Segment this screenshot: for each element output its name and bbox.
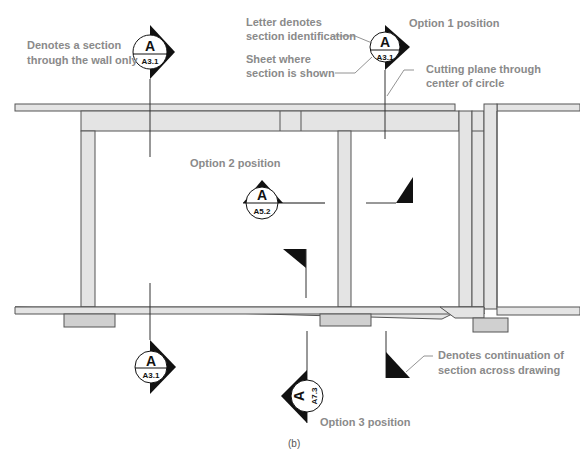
top-wall-band xyxy=(81,111,459,131)
bottom-slab xyxy=(15,307,484,314)
top-wall-left xyxy=(15,104,455,111)
flag-arrow-icon xyxy=(386,352,410,378)
sheet-number: A5.2 xyxy=(254,207,271,216)
wall-only-label: Denotes a section xyxy=(27,39,121,51)
section-symbol-option3: A A7.3 xyxy=(281,331,323,423)
letter-label-2: section identification xyxy=(246,30,356,42)
continuation-marker-lower xyxy=(386,331,410,378)
footing-right xyxy=(473,318,508,332)
section-letter: A xyxy=(291,391,307,401)
section-symbol-wall-bottom: A A3.1 xyxy=(135,283,176,394)
figure-caption: (b) xyxy=(288,438,300,449)
section-letter: A xyxy=(146,353,156,369)
bottom-slab-right xyxy=(497,307,580,315)
option2-label: Option 2 position xyxy=(190,157,281,169)
option1-label: Option 1 position xyxy=(409,17,500,29)
letter-label: Letter denotes xyxy=(246,16,322,28)
right-wall-2 xyxy=(472,111,484,307)
floor-plan xyxy=(15,104,580,332)
section-letter: A xyxy=(257,187,267,203)
continuation-marker-upper xyxy=(366,177,413,203)
flag-arrow-icon xyxy=(396,177,413,203)
section-letter: A xyxy=(145,38,155,54)
continuation-label: Denotes continuation of xyxy=(438,349,564,361)
option3-label: Option 3 position xyxy=(320,416,411,428)
sheet-number: A3.1 xyxy=(142,57,159,66)
footing-left xyxy=(64,314,115,327)
cutting-plane-label: Cutting plane through xyxy=(426,63,541,75)
section-reference-diagram: A A3.1 A A3.1 A A5.2 A A3.1 xyxy=(0,0,580,462)
sheet-label: Sheet where xyxy=(246,53,311,65)
wall-only-label-2: through the wall only xyxy=(27,54,138,66)
section-letter: A xyxy=(380,34,390,50)
continuation-marker-middle xyxy=(283,249,306,298)
sheet-number: A3.1 xyxy=(377,53,394,62)
continuation-label-2: section across drawing xyxy=(438,364,560,376)
flag-arrow-icon xyxy=(283,249,306,268)
middle-wall xyxy=(338,131,351,307)
section-symbol-wall-top: A A3.1 xyxy=(133,25,175,157)
right-wall-1 xyxy=(459,111,472,307)
right-wall-3 xyxy=(484,104,497,309)
sheet-number: A7.3 xyxy=(310,387,319,404)
top-wall-right xyxy=(497,104,580,111)
cutting-plane-label-2: center of circle xyxy=(426,77,504,89)
left-wall xyxy=(81,131,95,307)
footing-middle xyxy=(320,314,371,326)
sheet-number: A3.1 xyxy=(143,371,160,380)
section-symbol-option2: A A5.2 xyxy=(243,180,325,219)
sheet-label-2: section is shown xyxy=(246,67,335,79)
